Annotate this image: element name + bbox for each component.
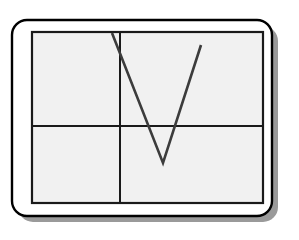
gesture-canvas-svg[interactable] bbox=[0, 0, 299, 240]
canvas-root bbox=[0, 0, 299, 240]
grid-canvas[interactable] bbox=[32, 32, 263, 203]
